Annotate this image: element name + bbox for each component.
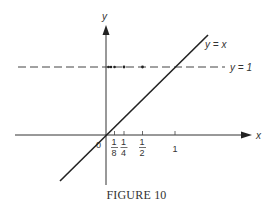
svg-text:8: 8 <box>112 148 117 158</box>
tick-label-one: 1 <box>173 144 178 154</box>
point <box>110 66 113 69</box>
tick-label-one-half: 1 2 <box>139 137 146 158</box>
svg-text:1: 1 <box>112 137 117 147</box>
x-axis-arrow-icon <box>241 132 252 139</box>
annotation-y-equals-x: y = x <box>204 39 227 50</box>
y-axis-arrow-icon <box>103 25 110 35</box>
point <box>113 66 116 69</box>
annotation-y-equals-1: y = 1 <box>229 62 252 73</box>
tick-label-one-eighth: 1 8 <box>111 137 118 158</box>
point <box>141 66 144 69</box>
svg-text:4: 4 <box>121 148 126 158</box>
x-ticks <box>115 131 176 135</box>
point <box>107 66 110 69</box>
point <box>123 66 126 69</box>
svg-text:1: 1 <box>121 137 126 147</box>
line-y-equals-x <box>60 35 208 181</box>
figure-caption: FIGURE 10 <box>0 188 273 203</box>
tick-label-one-quarter: 1 4 <box>121 137 128 158</box>
svg-text:2: 2 <box>140 148 145 158</box>
svg-text:1: 1 <box>140 137 145 147</box>
figure-plot: x y 0 1 8 1 4 1 2 1 y = x y = 1 <box>0 0 273 210</box>
x-axis-label: x <box>255 130 262 141</box>
y-axis-label: y <box>101 11 108 22</box>
